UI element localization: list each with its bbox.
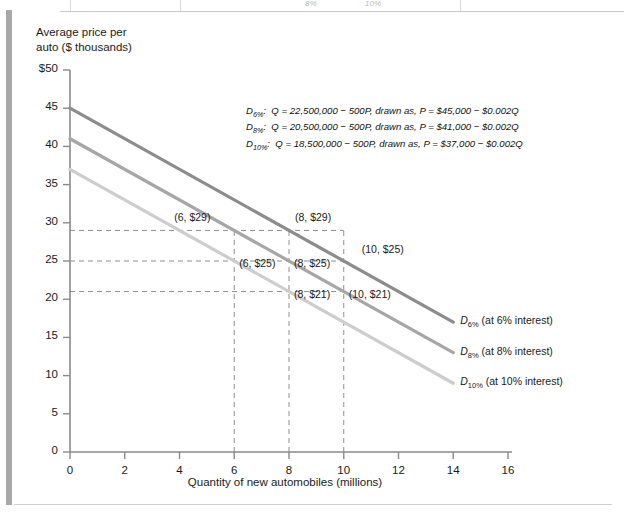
point-annotation: (10, $21) [349,288,391,300]
curve-label-subscript: 8% [468,351,479,360]
equation-row: D10%: Q = 18,500,000 − 500P, drawn as, P… [246,138,523,154]
equation-subscript: 8% [253,126,263,135]
demand-curve-d10 [70,169,453,383]
equation-symbol: D8% [246,121,263,132]
y-axis-tick-label: 40 [14,138,58,150]
demand-curves-chart: $504540353025201510500246810121416D6% (a… [0,0,624,513]
curve-label-subscript: 6% [468,320,479,329]
equation-symbol: D10% [246,138,267,149]
y-axis-tick-label: 45 [14,100,58,112]
x-axis-tick-label: 6 [214,464,254,476]
point-annotation: (6, $29) [174,211,210,223]
y-axis-tick-label: 0 [14,444,58,456]
y-axis-tick-label: 20 [14,291,58,303]
curve-label-d6: D6% (at 6% interest) [460,314,553,329]
point-annotation: (6, $25) [239,257,275,269]
equation-row: D6%: Q = 22,500,000 − 500P, drawn as, P … [246,105,523,121]
curve-label-d8: D8% (at 8% interest) [460,345,553,360]
equations-annotation: D6%: Q = 22,500,000 − 500P, drawn as, P … [246,105,523,154]
x-axis-tick-label: 2 [105,464,145,476]
curve-label-symbol: D6% [460,314,478,326]
equation-row: D8%: Q = 20,500,000 − 500P, drawn as, P … [246,121,523,137]
curve-label-symbol: D8% [460,345,478,357]
x-axis-tick-label: 14 [433,464,473,476]
y-axis-tick-label: 35 [14,177,58,189]
x-axis-tick-label: 10 [324,464,364,476]
y-axis-tick-label: 10 [14,368,58,380]
equation-text: : Q = 22,500,000 − 500P, drawn as, P = $… [263,105,519,116]
x-axis-tick-label: 0 [50,464,90,476]
curve-label-symbol: D10% [460,375,483,387]
equation-subscript: 10% [253,143,267,152]
x-axis-tick-label: 12 [379,464,419,476]
point-annotation: (8, $29) [295,211,331,223]
equation-subscript: 6% [253,110,263,119]
curve-label-text: (at 10% interest) [483,375,563,387]
curve-label-subscript: 10% [468,381,483,390]
x-axis-tick-label: 16 [488,464,528,476]
y-axis-tick-label: $50 [14,62,58,74]
curve-label-text: (at 8% interest) [479,345,553,357]
curve-label-d10: D10% (at 10% interest) [460,375,563,390]
point-annotation: (8, $21) [294,288,330,300]
equation-text: : Q = 20,500,000 − 500P, drawn as, P = $… [263,121,519,132]
x-axis-tick-label: 4 [160,464,200,476]
point-annotation: (8, $25) [294,257,330,269]
equation-text: : Q = 18,500,000 − 500P, drawn as, P = $… [267,138,523,149]
y-axis-tick-label: 25 [14,253,58,265]
y-axis-tick-label: 15 [14,329,58,341]
x-axis-tick-label: 8 [269,464,309,476]
y-axis-tick-label: 30 [14,215,58,227]
curve-label-text: (at 6% interest) [479,314,553,326]
equation-symbol: D6% [246,105,263,116]
y-axis-tick-label: 5 [14,406,58,418]
point-annotation: (10, $25) [362,243,404,255]
